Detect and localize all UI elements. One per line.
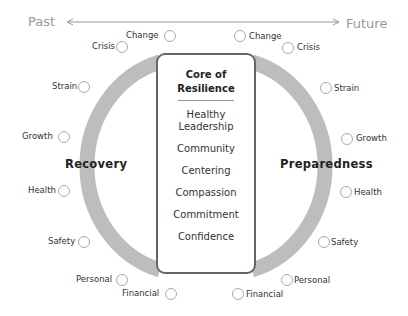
circle-icon [116, 41, 128, 53]
circle-icon [58, 185, 70, 197]
circle-icon [320, 82, 332, 94]
preparedness-item-change: Change [249, 31, 282, 41]
resilience-diagram: Past Future Change Crisis Strain Growth … [0, 0, 408, 316]
recovery-item-crisis: Crisis [92, 41, 115, 51]
circle-icon [78, 236, 90, 248]
preparedness-item-strain: Strain [334, 83, 359, 93]
circle-icon [164, 30, 176, 42]
core-item-commitment: Commitment [158, 209, 254, 221]
core-title: Core of Resilience [158, 68, 254, 96]
preparedness-item-personal: Personal [294, 275, 330, 285]
circle-icon [165, 288, 177, 300]
circle-icon [340, 186, 352, 198]
circle-icon [58, 131, 70, 143]
future-label: Future [346, 17, 387, 31]
recovery-item-growth: Growth [22, 131, 53, 141]
preparedness-item-crisis: Crisis [297, 42, 320, 52]
recovery-item-health: Health [28, 185, 56, 195]
preparedness-item-financial: Financial [246, 289, 283, 299]
recovery-item-strain: Strain [52, 81, 77, 91]
preparedness-item-safety: Safety [331, 237, 358, 247]
preparedness-item-health: Health [354, 187, 382, 197]
circle-icon [341, 133, 353, 145]
recovery-label: Recovery [65, 157, 127, 171]
recovery-item-personal: Personal [76, 274, 112, 284]
circle-icon [234, 30, 246, 42]
circle-icon [318, 236, 330, 248]
core-item-confidence: Confidence [158, 231, 254, 243]
circle-icon [116, 274, 128, 286]
core-divider [178, 100, 234, 101]
circle-icon [232, 288, 244, 300]
core-item-centering: Centering [158, 165, 254, 177]
recovery-item-change: Change [126, 30, 159, 40]
circle-icon [281, 274, 293, 286]
recovery-item-safety: Safety [48, 236, 75, 246]
core-item-community: Community [158, 143, 254, 155]
core-item-healthy-leadership: Healthy Leadership [176, 109, 236, 133]
recovery-item-financial: Financial [122, 288, 159, 298]
past-label: Past [28, 15, 55, 29]
preparedness-item-growth: Growth [356, 133, 387, 143]
circle-icon [282, 42, 294, 54]
preparedness-label: Preparedness [280, 157, 373, 171]
core-of-resilience-box: Core of Resilience Healthy Leadership Co… [156, 53, 256, 274]
core-item-compassion: Compassion [158, 187, 254, 199]
circle-icon [78, 81, 90, 93]
